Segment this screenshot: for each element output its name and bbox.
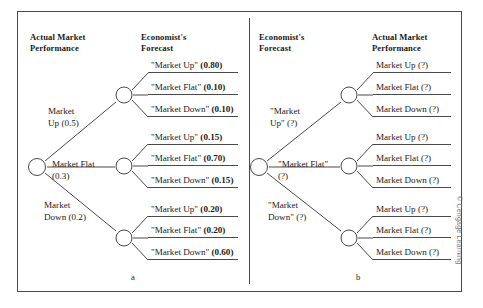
copyright-credit: © Cengage Learning <box>456 196 463 264</box>
leaf-prob: (?) <box>421 225 431 235</box>
leaf-rule <box>148 144 238 145</box>
panel-b-header-right: Actual Market Performance <box>372 32 427 53</box>
panel-b-leaf-1-1: Market Up (?) <box>376 60 428 72</box>
leaf-text: Market Down <box>376 175 427 185</box>
leaf-prob: (?) <box>418 132 428 142</box>
leaf-prob: (0.20) <box>200 204 222 214</box>
leaf-text: Market Up <box>376 60 416 70</box>
panel-a-branch-label-1: Market Up (0.5) <box>48 106 79 129</box>
leaf-rule <box>373 259 451 260</box>
panel-a-leaf-2-2: "Market Flat" (0.70) <box>151 153 225 165</box>
panel-b-leaf-2-3: Market Down (?) <box>376 175 439 187</box>
leaf-prob: (?) <box>421 153 431 163</box>
leaf-prob: (?) <box>429 247 439 257</box>
panel-b-leaf-2-1: Market Up (?) <box>376 132 428 144</box>
leaf-rule <box>148 259 238 260</box>
leaf-text: "Market Up" <box>151 132 198 142</box>
panel-a-branch-label-3: Market Down (0.2) <box>44 200 86 223</box>
leaf-prob: (0.10) <box>203 82 225 92</box>
leaf-prob: (0.70) <box>203 153 225 163</box>
leaf-prob: (0.10) <box>211 104 233 114</box>
leaf-prob: (0.15) <box>200 132 222 142</box>
panel-b-branch-label-2: "Market Flat" (?) <box>278 159 328 182</box>
leaf-text: Market Down <box>376 104 427 114</box>
leaf-prob: (?) <box>429 104 439 114</box>
leaf-rule <box>373 116 451 117</box>
panel-b-leaf-1-3: Market Down (?) <box>376 104 439 116</box>
panel-a-leaf-3-3: "Market Down" (0.60) <box>151 247 233 259</box>
leaf-text: "Market Up" <box>151 204 198 214</box>
panel-b-branch-label-1: "Market Up" (?) <box>270 106 300 129</box>
panel-b-leaf-3-1: Market Up (?) <box>376 204 428 216</box>
leaf-rule <box>148 94 238 95</box>
leaf-text: Market Flat <box>376 153 419 163</box>
panel-b-branch-label-3: "Market Down" (?) <box>268 200 306 223</box>
leaf-text: "Market Down" <box>151 247 209 257</box>
panel-a-leaf-2-1: "Market Up" (0.15) <box>151 132 222 144</box>
leaf-text: "Market Up" <box>151 60 198 70</box>
panel-b-leaf-2-2: Market Flat (?) <box>376 153 431 165</box>
leaf-prob: (?) <box>421 82 431 92</box>
leaf-prob: (0.20) <box>203 225 225 235</box>
leaf-rule <box>373 237 451 238</box>
panel-a-leaf-3-1: "Market Up" (0.20) <box>151 204 222 216</box>
panel-b-letter: b <box>356 272 360 282</box>
panel-a-leaf-1-1: "Market Up" (0.80) <box>151 60 222 72</box>
leaf-rule <box>373 72 451 73</box>
panel-a-leaf-3-2: "Market Flat" (0.20) <box>151 225 225 237</box>
leaf-rule <box>373 165 451 166</box>
leaf-rule <box>373 94 451 95</box>
leaf-rule <box>148 165 238 166</box>
leaf-prob: (0.80) <box>200 60 222 70</box>
leaf-prob: (?) <box>418 60 428 70</box>
leaf-text: Market Up <box>376 204 416 214</box>
leaf-rule <box>148 116 238 117</box>
leaf-rule <box>373 187 451 188</box>
leaf-rule <box>148 187 238 188</box>
panel-b-leaf-3-2: Market Flat (?) <box>376 225 431 237</box>
panel-b-header-left: Economist's Forecast <box>259 32 305 53</box>
leaf-text: "Market Down" <box>151 104 209 114</box>
leaf-rule <box>148 216 238 217</box>
leaf-text: Market Up <box>376 132 416 142</box>
leaf-rule <box>373 216 451 217</box>
leaf-text: "Market Flat" <box>151 153 201 163</box>
leaf-text: Market Flat <box>376 225 419 235</box>
panel-a-header-right: Economist's Forecast <box>141 32 187 53</box>
leaf-text: Market Flat <box>376 82 419 92</box>
panel-b-leaf-3-3: Market Down (?) <box>376 247 439 259</box>
leaf-prob: (0.60) <box>211 247 233 257</box>
leaf-prob: (?) <box>429 175 439 185</box>
leaf-prob: (0.15) <box>211 175 233 185</box>
leaf-text: Market Down <box>376 247 427 257</box>
leaf-rule <box>148 72 238 73</box>
panel-b-leaf-1-2: Market Flat (?) <box>376 82 431 94</box>
panel-a-leaf-1-3: "Market Down" (0.10) <box>151 104 233 116</box>
leaf-prob: (?) <box>418 204 428 214</box>
leaf-rule <box>148 237 238 238</box>
panel-a-leaf-2-3: "Market Down" (0.15) <box>151 175 233 187</box>
panel-a-header-left: Actual Market Performance <box>30 32 85 53</box>
panel-a-branch-label-2: Market Flat (0.3) <box>52 159 95 182</box>
leaf-text: "Market Down" <box>151 175 209 185</box>
leaf-text: "Market Flat" <box>151 225 201 235</box>
panel-divider <box>249 18 250 284</box>
panel-a-leaf-1-2: "Market Flat" (0.10) <box>151 82 225 94</box>
probability-tree-figure: Actual Market Performance Economist's Fo… <box>0 0 483 308</box>
leaf-text: "Market Flat" <box>151 82 201 92</box>
panel-a-letter: a <box>131 272 135 282</box>
leaf-rule <box>373 144 451 145</box>
